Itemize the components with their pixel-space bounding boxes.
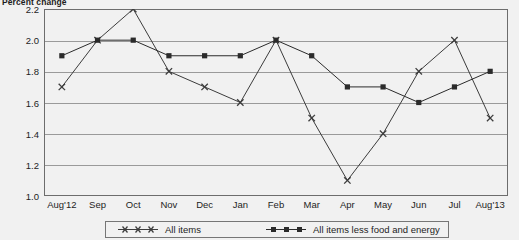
data-point-marker <box>452 84 457 89</box>
x-axis-tick-label: Apr <box>340 199 355 210</box>
x-axis-tick-label: Aug'13 <box>475 199 504 210</box>
chart-container: Percent change 1.01.21.41.61.82.02.2 Aug… <box>0 0 519 240</box>
series-cross <box>59 9 494 184</box>
data-point-marker <box>380 84 385 89</box>
series-line <box>62 9 490 180</box>
data-point-marker <box>309 53 314 58</box>
chart-title: Percent change <box>2 0 67 7</box>
data-point-marker <box>202 53 207 58</box>
data-point-marker <box>130 9 136 12</box>
data-point-marker <box>344 177 350 183</box>
data-point-marker <box>488 69 493 74</box>
data-point-marker <box>345 84 350 89</box>
data-point-marker <box>166 53 171 58</box>
series-line <box>62 40 490 102</box>
data-point-marker <box>201 84 207 90</box>
legend-label: All items <box>165 224 201 235</box>
x-axis-tick-label: Mar <box>304 199 320 210</box>
data-point-marker <box>238 53 243 58</box>
x-axis-tick-label: Feb <box>268 199 284 210</box>
series-square <box>59 38 493 106</box>
x-axis-tick-label: Nov <box>160 199 177 210</box>
y-axis-tick-label: 1.6 <box>6 97 39 108</box>
y-axis-tick-label: 1.2 <box>6 159 39 170</box>
data-point-marker <box>95 38 100 43</box>
y-axis-tick-label: 2.0 <box>6 35 39 46</box>
data-point-marker <box>59 53 64 58</box>
x-axis-tick-label: Sep <box>89 199 106 210</box>
data-point-marker <box>166 68 172 74</box>
data-point-marker <box>237 99 243 105</box>
legend-label: All items less food and energy <box>313 224 440 235</box>
legend-marker-square-icon <box>266 224 306 235</box>
x-axis-tick-label: Aug'12 <box>47 199 76 210</box>
x-axis-tick-label: Jun <box>411 199 426 210</box>
legend-item-all-items: All items <box>118 222 201 237</box>
data-point-marker <box>487 115 493 121</box>
series-group <box>44 9 508 196</box>
x-axis-tick-label: Jul <box>448 199 460 210</box>
data-point-marker <box>131 38 136 43</box>
data-point-marker <box>380 130 386 136</box>
data-point-marker <box>451 37 457 43</box>
x-axis-tick-label: Oct <box>126 199 141 210</box>
data-point-marker <box>273 38 278 43</box>
x-axis-tick-label: Dec <box>196 199 213 210</box>
chart-legend: All items All items less food and energy <box>105 221 449 238</box>
data-point-marker <box>416 100 421 105</box>
x-axis-tick-label: May <box>374 199 392 210</box>
data-point-marker <box>308 115 314 121</box>
data-point-marker <box>416 68 422 74</box>
legend-marker-cross-icon <box>118 224 158 235</box>
y-axis-tick-label: 1.4 <box>6 128 39 139</box>
data-point-marker <box>59 84 65 90</box>
y-axis-tick-label: 1.0 <box>6 191 39 202</box>
legend-item-core: All items less food and energy <box>266 222 440 237</box>
x-axis-tick-label: Jan <box>233 199 248 210</box>
y-axis-tick-label: 1.8 <box>6 66 39 77</box>
